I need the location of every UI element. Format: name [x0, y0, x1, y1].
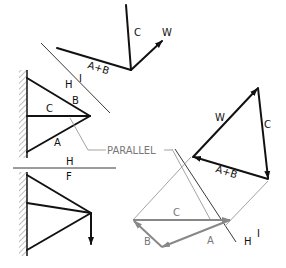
leader-line-left [70, 118, 106, 150]
construction-line-right [225, 181, 268, 226]
construction-triangle: C B A [133, 207, 230, 247]
label-H-bottom: H [244, 236, 252, 247]
vector-sketch: C W A+B [57, 5, 172, 76]
vector-label-W: W [162, 27, 172, 38]
vector-label-C: C [134, 27, 141, 38]
force-triangle: W C A+B [193, 88, 271, 180]
line-H-I-bottom [175, 149, 236, 242]
vector-W-arrow [131, 41, 162, 70]
construction-line-left [133, 157, 191, 220]
gray-label-A: A [207, 235, 214, 246]
label-H-top: H [65, 79, 73, 90]
construction-lines [133, 149, 268, 242]
member-bottom-bottom-truss [27, 213, 91, 250]
label-I-bottom: I [257, 228, 260, 239]
vector-C-line [126, 5, 131, 70]
gray-label-B: B [144, 236, 151, 247]
truss-bottom [19, 172, 91, 256]
wall-hatch-top [19, 70, 27, 158]
triangle-label-W: W [215, 112, 225, 123]
label-A: A [54, 137, 61, 148]
label-C: C [46, 103, 53, 114]
parallel-label: PARALLEL [107, 145, 156, 156]
triangle-vector-C [258, 88, 268, 178]
label-H-separator: H [66, 156, 74, 167]
triangle-label-C: C [264, 119, 271, 130]
triangle-vector-W [193, 89, 257, 157]
gray-vector-A [162, 220, 230, 247]
gray-label-C: C [173, 207, 180, 218]
triangle-label-AB: A+B [214, 163, 238, 180]
label-I-top: I [79, 73, 82, 84]
force-diagram: C W A+B H I B C A H F PARALLEL [0, 0, 286, 268]
wall-hatch-bottom [19, 172, 27, 256]
label-F-separator: F [66, 171, 72, 182]
label-B: B [72, 95, 79, 106]
parallel-leader: PARALLEL [70, 118, 172, 156]
